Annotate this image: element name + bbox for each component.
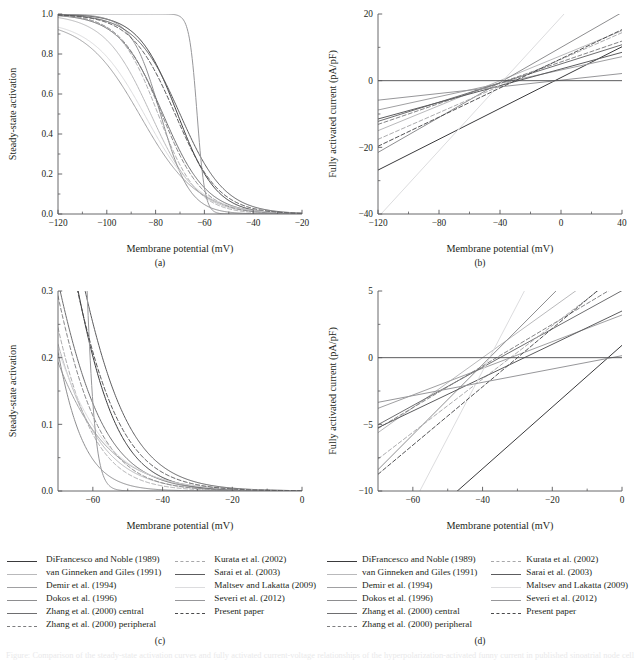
x-tick-label: 0 xyxy=(559,218,564,228)
legend-swatch-cell xyxy=(491,605,526,618)
series-line xyxy=(58,18,302,214)
y-tick-label: 0.0 xyxy=(41,486,53,496)
panel-d-plot: −60−40−200−10−505Membrane potential (mV)… xyxy=(320,277,640,535)
series-line xyxy=(378,356,622,403)
panel-b: −120−80−40040−40−20020Membrane potential… xyxy=(320,0,640,258)
panel-c-label: (c) xyxy=(130,636,190,646)
legend-label-cell: Dokos et al. (1996) xyxy=(362,592,491,605)
x-tick-label: −40 xyxy=(493,218,508,228)
figure-caption: Figure: Comparison of the steady-state a… xyxy=(0,651,640,662)
y-tick-label: 1.0 xyxy=(41,9,53,19)
legend-row: Zhang et al. (2000) peripheral xyxy=(7,618,330,631)
series-line xyxy=(58,277,302,491)
y-tick-label: 0.0 xyxy=(41,209,53,219)
panel-a-plot: −120−100−80−60−40−200.00.20.40.60.81.0Me… xyxy=(0,0,320,258)
y-tick-label: 0.6 xyxy=(41,89,53,99)
data-series-group xyxy=(58,277,302,491)
legend-swatch-cell xyxy=(491,553,526,566)
series-line xyxy=(378,47,622,170)
legend-row: Zhang et al. (2000) peripheral xyxy=(327,618,640,631)
x-tick-label: 0 xyxy=(300,495,305,505)
series-line xyxy=(378,277,622,474)
legend-label-cell: Kurata et al. (2002) xyxy=(214,553,330,566)
data-series-group xyxy=(58,14,302,214)
x-tick-label: −100 xyxy=(97,218,117,228)
x-tick-label: −80 xyxy=(432,218,447,228)
legend-left: DiFrancesco and Noble (1989)Kurata et al… xyxy=(7,553,330,632)
y-tick-label: 0.2 xyxy=(41,169,53,179)
series-line xyxy=(58,277,302,491)
legend-label-cell: Zhang et al. (2000) central xyxy=(46,605,175,618)
legend-label-cell: Maltsev and Lakatta (2009) xyxy=(214,579,330,592)
legend-swatch-cell xyxy=(491,579,526,592)
legend-swatch-cell xyxy=(327,618,362,631)
series-line xyxy=(378,277,622,459)
series-line xyxy=(378,30,622,147)
legend-label-cell: Demir et al. (1994) xyxy=(46,579,175,592)
legend-label-cell: Zhang et al. (2000) central xyxy=(362,605,491,618)
x-tick-label: −40 xyxy=(155,495,170,505)
legend-swatch-cell xyxy=(327,592,362,605)
legend-swatch-cell xyxy=(7,592,46,605)
y-tick-label: 0.2 xyxy=(41,353,53,363)
legend-label-cell: DiFrancesco and Noble (1989) xyxy=(46,553,175,566)
y-tick-label: 0.4 xyxy=(41,129,53,139)
series-line xyxy=(378,311,622,428)
legend-row: Dokos et al. (1996)Severi et al. (2012) xyxy=(327,592,640,605)
y-tick-label: −40 xyxy=(358,209,373,219)
x-tick-label: −60 xyxy=(86,495,101,505)
panel-a: −120−100−80−60−40−200.00.20.40.60.81.0Me… xyxy=(0,0,320,258)
legend-row: Dokos et al. (1996)Severi et al. (2012) xyxy=(7,592,330,605)
x-tick-label: −20 xyxy=(295,218,310,228)
series-line xyxy=(58,344,302,491)
panel-d: −60−40−200−10−505Membrane potential (mV)… xyxy=(320,277,640,535)
legend-row: DiFrancesco and Noble (1989)Kurata et al… xyxy=(327,553,640,566)
x-axis-label: Membrane potential (mV) xyxy=(127,243,234,255)
y-axis-label: Fully activated current (pA/pF) xyxy=(327,327,339,455)
series-line xyxy=(378,52,622,119)
x-tick-label: −40 xyxy=(475,495,490,505)
legend-swatch-cell xyxy=(327,553,362,566)
legend-swatch-cell xyxy=(491,566,526,579)
legend-label-cell xyxy=(526,618,640,631)
series-line xyxy=(378,41,622,124)
x-axis-label: Membrane potential (mV) xyxy=(447,243,554,255)
legend-label-cell: Maltsev and Lakatta (2009) xyxy=(526,579,640,592)
x-axis-label: Membrane potential (mV) xyxy=(127,520,234,532)
legend-swatch-cell xyxy=(175,553,214,566)
data-series-group xyxy=(378,0,622,217)
series-line xyxy=(378,283,622,429)
legend-swatch-cell xyxy=(7,566,46,579)
y-tick-label: −20 xyxy=(358,143,373,153)
y-tick-label: 0.8 xyxy=(41,49,53,59)
legend-swatch-cell xyxy=(7,553,46,566)
legend-row: DiFrancesco and Noble (1989)Kurata et al… xyxy=(7,553,330,566)
x-tick-label: −60 xyxy=(197,218,212,228)
legend-label-cell: Dokos et al. (1996) xyxy=(46,592,175,605)
x-tick-label: −20 xyxy=(225,495,240,505)
x-tick-label: −20 xyxy=(545,495,560,505)
x-tick-label: −40 xyxy=(246,218,261,228)
series-line xyxy=(378,74,622,101)
legend-label-cell xyxy=(214,618,330,631)
series-line xyxy=(58,281,302,491)
y-tick-label: −5 xyxy=(363,420,373,430)
x-tick-label: 0 xyxy=(620,495,625,505)
legend-row: Demir et al. (1994)Maltsev and Lakatta (… xyxy=(7,579,330,592)
legend-swatch-cell xyxy=(175,579,214,592)
legend-swatch-cell xyxy=(7,579,46,592)
x-axis-label: Membrane potential (mV) xyxy=(447,520,554,532)
y-tick-label: 0.3 xyxy=(41,286,53,296)
legend-label-cell: Severi et al. (2012) xyxy=(214,592,330,605)
panel-b-label: (b) xyxy=(450,258,510,268)
y-tick-label: 0 xyxy=(368,353,373,363)
legend-label-cell: Present paper xyxy=(214,605,330,618)
legend-swatch-cell xyxy=(7,618,46,631)
legend-swatch-cell xyxy=(175,566,214,579)
y-axis-label: Fully activated current (pA/pF) xyxy=(327,50,339,178)
legend-row: van Ginneken and Giles (1991)Sarai et al… xyxy=(7,566,330,579)
y-tick-label: 5 xyxy=(368,286,373,296)
series-line xyxy=(378,345,622,535)
x-tick-label: 40 xyxy=(617,218,627,228)
panel-c: −60−40−2000.00.10.20.3Membrane potential… xyxy=(0,277,320,535)
